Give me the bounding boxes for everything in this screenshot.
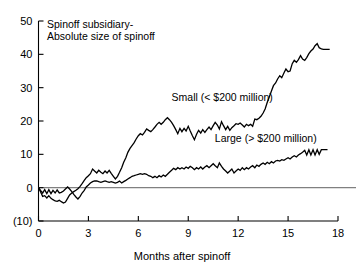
x-tick-label: 12 (232, 227, 244, 239)
series-line-small (39, 44, 330, 203)
chart-note-line-1: Spinoff subsidiary- (47, 18, 134, 30)
y-tick-label: 0 (26, 182, 32, 194)
x-tick-label: 0 (35, 227, 41, 239)
x-tick-label: 6 (135, 227, 141, 239)
y-tick-label: 20 (20, 115, 32, 127)
data-series-layer (39, 44, 330, 203)
x-tick-label: 15 (282, 227, 294, 239)
x-tick-label: 9 (185, 227, 191, 239)
series-label-small: Small (< $200 million) (172, 91, 273, 103)
spinoff-performance-chart: (10)01020304050 0369121518 Small (< $200… (0, 0, 363, 268)
axis-layer (39, 21, 357, 221)
series-label-large: Large (> $200 million) (215, 132, 317, 144)
y-tick-label: 40 (20, 48, 32, 60)
y-tick-label: (10) (13, 215, 33, 227)
y-tick-label: 10 (20, 148, 32, 160)
series-line-large (39, 150, 328, 199)
x-axis-ticks: 0369121518 (35, 216, 344, 239)
y-tick-label: 30 (20, 82, 32, 94)
x-tick-label: 3 (85, 227, 91, 239)
y-tick-label: 50 (20, 15, 32, 27)
chart-note: Spinoff subsidiary-Absolute size of spin… (47, 18, 155, 42)
chart-container: (10)01020304050 0369121518 Small (< $200… (0, 0, 363, 268)
x-axis-title: Months after spinoff (134, 250, 231, 262)
chart-note-line-2: Absolute size of spinoff (47, 30, 155, 42)
x-tick-label: 18 (332, 227, 344, 239)
